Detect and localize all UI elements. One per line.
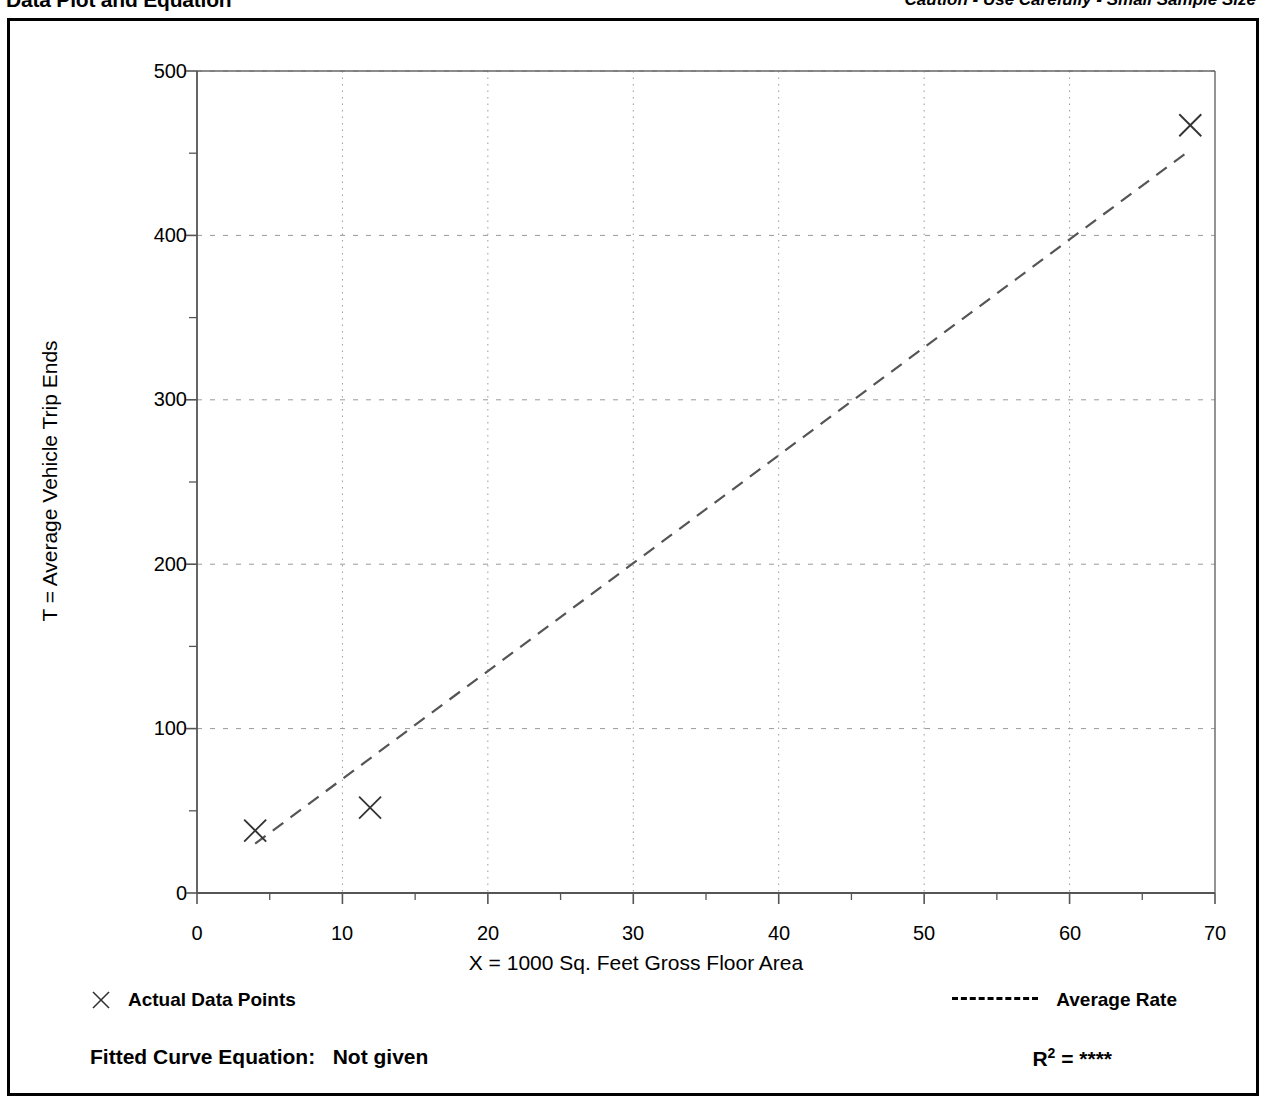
average-rate-line <box>255 153 1186 843</box>
legend-label-average-rate: Average Rate <box>1056 989 1177 1011</box>
page-header: Data Plot and Equation Caution - Use Car… <box>0 0 1268 16</box>
x-marker-icon <box>90 989 112 1011</box>
r-squared-value: R2 = **** <box>1032 1045 1112 1071</box>
chart-canvas: T = Average Vehicle Trip Ends X = 1000 S… <box>10 21 1262 1099</box>
trend-line <box>255 153 1186 843</box>
legend-label-actual-data-points: Actual Data Points <box>128 989 296 1011</box>
plot-area <box>10 21 1262 1099</box>
grid-lines <box>197 71 1215 893</box>
fitted-curve-value: Not given <box>333 1045 429 1068</box>
data-point-2 <box>1179 114 1201 136</box>
axis-ticks <box>186 71 1215 904</box>
data-point-0 <box>244 820 266 842</box>
fitted-curve-equation: Fitted Curve Equation: Not given <box>90 1045 428 1069</box>
r-symbol: R <box>1032 1047 1047 1070</box>
dashed-line-icon <box>952 997 1038 1003</box>
page-title: Data Plot and Equation <box>6 0 231 12</box>
chart-footer: Actual Data Points Average Rate Fitted C… <box>10 989 1262 1099</box>
data-point-1 <box>359 797 381 819</box>
r-squared-stars: **** <box>1079 1047 1112 1070</box>
legend-actual-data-points: Actual Data Points <box>90 989 296 1011</box>
caution-note: Caution - Use Carefully - Small Sample S… <box>905 0 1256 10</box>
r-exponent: 2 <box>1048 1045 1056 1061</box>
chart-frame: T = Average Vehicle Trip Ends X = 1000 S… <box>7 18 1259 1096</box>
equation-row: Fitted Curve Equation: Not given R2 = **… <box>10 1045 1262 1085</box>
data-point-markers <box>244 114 1201 841</box>
r-equals-sign: = <box>1061 1047 1073 1070</box>
legend-average-rate: Average Rate <box>952 989 1177 1011</box>
fitted-curve-label: Fitted Curve Equation: <box>90 1045 315 1068</box>
